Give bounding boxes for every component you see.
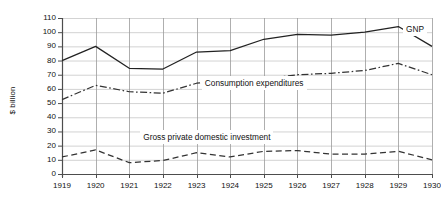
y-axis-tick-labels: 0102030405060708090100110 [26,0,56,223]
y-axis-tick-label: 40 [30,113,56,121]
x-axis-tick-label: 1925 [255,182,273,190]
x-axis-tick-label: 1919 [53,182,71,190]
series-line-2 [62,150,432,163]
x-axis-tick-label: 1922 [154,182,172,190]
y-axis-tick-label: 60 [30,85,56,93]
x-axis-tick-label: 1930 [423,182,441,190]
gnp-components-line-chart: $ billion 0102030405060708090100110 1919… [0,0,441,223]
x-axis-tick-label: 1921 [120,182,138,190]
y-axis-tick-label: 100 [30,28,56,36]
x-axis-tick-label: 1927 [322,182,340,190]
y-axis-tick-label: 50 [30,99,56,107]
x-axis-tick-label: 1926 [289,182,307,190]
y-axis-tick-label: 20 [30,142,56,150]
series-label-1: Consumption expenditures [202,76,307,90]
x-axis-tick-label: 1924 [221,182,239,190]
x-axis-tick-label: 1920 [87,182,105,190]
y-axis-tick-label: 10 [30,156,56,164]
series-label-0: GNP [403,22,427,36]
y-axis-tick-label: 30 [30,127,56,135]
y-axis-tick-label: 70 [30,71,56,79]
series-label-2: Gross private domestic investment [140,130,273,144]
x-axis-tick-label: 1929 [389,182,407,190]
y-axis-tick-label: 90 [30,42,56,50]
y-axis-tick-label: 110 [30,14,56,22]
y-axis-tick-label: 0 [30,170,56,178]
x-axis-tick-label: 1928 [356,182,374,190]
x-axis-tick-label: 1923 [188,182,206,190]
y-axis-tick-label: 80 [30,57,56,65]
